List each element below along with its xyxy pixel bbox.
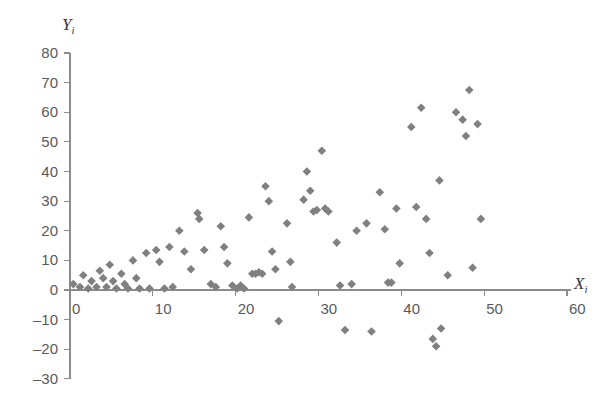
data-point: [417, 104, 426, 113]
data-point: [87, 277, 96, 286]
data-point: [458, 115, 467, 124]
x-tick-label-0: 0: [72, 301, 80, 316]
data-point: [380, 225, 389, 234]
data-point: [425, 249, 434, 258]
data-point: [367, 327, 376, 336]
data-point: [84, 284, 93, 293]
data-point: [155, 258, 164, 267]
data-point: [105, 261, 114, 270]
y-tick-label-30: 30: [0, 193, 58, 208]
data-point: [142, 249, 151, 258]
data-point: [392, 204, 401, 213]
data-point: [332, 238, 341, 247]
data-point: [283, 219, 292, 228]
data-point: [435, 176, 444, 185]
data-point: [347, 280, 356, 289]
x-axis-title-text: X: [574, 274, 584, 293]
data-point: [465, 86, 474, 95]
data-point: [286, 258, 295, 267]
y-tick-label--10: –10: [0, 312, 58, 327]
data-point: [135, 284, 144, 293]
data-point: [477, 215, 486, 224]
data-point: [452, 108, 461, 117]
data-point: [265, 197, 274, 206]
data-point: [132, 274, 141, 283]
data-point: [303, 167, 312, 176]
data-point: [412, 203, 421, 212]
y-tick-label--20: –20: [0, 341, 58, 356]
scatter-chart: –30–20–10010203040506070800102030405060 …: [0, 0, 607, 410]
data-point: [223, 259, 232, 268]
data-point: [79, 271, 88, 280]
y-tick-label-40: 40: [0, 164, 58, 179]
y-tick-label-80: 80: [0, 45, 58, 60]
y-tick-label--30: –30: [0, 371, 58, 386]
x-tick-label-20: 20: [238, 301, 255, 316]
data-point: [352, 226, 361, 235]
y-axis-title-subscript: i: [71, 24, 74, 36]
x-tick-label-30: 30: [321, 301, 338, 316]
data-point: [220, 243, 229, 252]
data-point: [165, 243, 174, 252]
data-point: [432, 342, 441, 351]
x-tick-label-40: 40: [403, 301, 420, 316]
data-point: [422, 215, 431, 224]
y-tick-label-50: 50: [0, 134, 58, 149]
data-point: [200, 246, 209, 255]
axes: [64, 53, 571, 379]
data-point: [274, 317, 283, 326]
x-tick-label-60: 60: [569, 301, 586, 316]
data-point: [336, 281, 345, 290]
data-point: [216, 222, 225, 231]
data-point: [443, 271, 452, 280]
y-tick-label-10: 10: [0, 252, 58, 267]
data-point: [112, 284, 121, 293]
data-point: [362, 219, 371, 228]
data-point: [395, 259, 404, 268]
data-point: [175, 226, 184, 235]
data-point: [468, 263, 477, 272]
data-point: [299, 195, 308, 204]
data-point: [318, 146, 327, 155]
x-tick-label-10: 10: [155, 301, 172, 316]
x-axis-title: Xi: [574, 275, 587, 295]
data-point: [462, 132, 471, 141]
x-axis-title-subscript: i: [584, 283, 587, 295]
data-point: [429, 335, 438, 344]
data-point: [109, 277, 118, 286]
y-axis-title: Yi: [62, 16, 75, 36]
data-point: [99, 274, 108, 283]
data-point: [160, 284, 169, 293]
data-point: [375, 188, 384, 197]
y-tick-label-0: 0: [0, 282, 58, 297]
plot-area: [0, 0, 607, 410]
data-point: [117, 269, 126, 278]
data-point: [261, 182, 270, 191]
data-point: [96, 266, 105, 275]
y-tick-label-20: 20: [0, 223, 58, 238]
data-point: [187, 265, 196, 274]
data-point: [268, 247, 277, 256]
y-tick-label-70: 70: [0, 75, 58, 90]
y-tick-label-60: 60: [0, 104, 58, 119]
data-point: [473, 120, 482, 129]
data-point: [341, 326, 350, 335]
data-point: [152, 246, 161, 255]
data-point: [180, 247, 189, 256]
data-point: [437, 324, 446, 333]
x-tick-label-50: 50: [486, 301, 503, 316]
data-point: [407, 123, 416, 132]
data-point: [129, 256, 138, 265]
data-point: [245, 213, 254, 222]
data-point: [306, 186, 315, 195]
data-points: [69, 86, 485, 351]
data-point: [271, 265, 280, 274]
